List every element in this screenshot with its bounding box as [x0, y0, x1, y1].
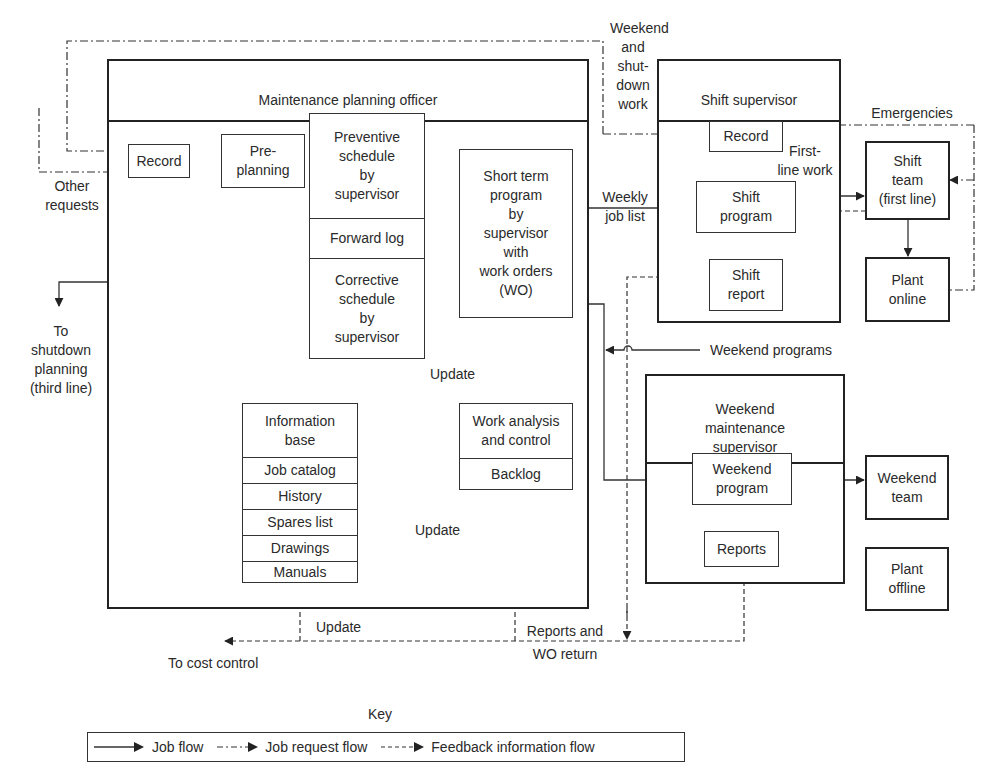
first-line-work-label: First- line work — [770, 142, 840, 180]
work-analysis-control: Work analysis and control — [460, 404, 572, 459]
job-request-flow-arrow-icon — [217, 741, 259, 753]
legend-feedback-flow: Feedback information flow — [431, 739, 594, 755]
to-cost-control-label: To cost control — [168, 654, 288, 673]
shift-supervisor-title: Shift supervisor — [659, 80, 839, 122]
shift-team-box: Shift team (first line) — [865, 141, 950, 220]
shift-report-box: Shift report — [709, 259, 783, 311]
key-title: Key — [360, 705, 400, 724]
to-shutdown-label: To shutdown planning (third line) — [18, 322, 104, 398]
update-label-bottom: Update — [316, 618, 376, 637]
short-term-program-box: Short term program by supervisor with wo… — [459, 149, 573, 318]
plant-offline-box: Plant offline — [865, 547, 949, 611]
info-item-manuals: Manuals — [243, 562, 357, 582]
schedule-stack: Preventive schedule by supervisor Forwar… — [309, 113, 425, 359]
corrective-schedule: Corrective schedule by supervisor — [310, 259, 424, 358]
work-analysis-stack: Work analysis and control Backlog — [459, 403, 573, 490]
legend-job-request-flow: Job request flow — [265, 739, 367, 755]
information-base-header: Information base — [243, 404, 357, 458]
legend: Job flow Job request flow Feedback infor… — [87, 732, 685, 762]
reports-wo-return-label: Reports and WO return — [515, 620, 615, 666]
weekly-job-list-label: Weekly job list — [590, 188, 660, 226]
weekend-team-box: Weekend team — [865, 455, 949, 520]
preventive-schedule: Preventive schedule by supervisor — [310, 114, 424, 219]
weekend-programs-label: Weekend programs — [710, 341, 870, 360]
record-box-left: Record — [128, 144, 190, 178]
backlog: Backlog — [460, 459, 572, 489]
info-item-job-catalog: Job catalog — [243, 458, 357, 484]
emergencies-label: Emergencies — [862, 104, 962, 123]
shift-program-box: Shift program — [696, 181, 796, 233]
plant-online-box: Plant online — [865, 257, 950, 322]
reports-box: Reports — [704, 531, 779, 567]
weekend-program-box: Weekend program — [692, 453, 792, 505]
weekend-shutdown-work-label: Weekend and shut- down work — [610, 19, 656, 114]
feedback-flow-arrow-icon — [381, 741, 425, 753]
other-requests-label: Other requests — [38, 177, 106, 215]
job-flow-arrow-icon — [94, 741, 146, 753]
forward-log: Forward log — [310, 219, 424, 259]
pre-planning-box: Pre- planning — [221, 134, 305, 188]
information-base-stack: Information base Job catalog History Spa… — [242, 403, 358, 583]
update-label-top: Update — [430, 365, 490, 384]
legend-job-flow: Job flow — [152, 739, 203, 755]
update-label-mid: Update — [415, 521, 475, 540]
info-item-spares-list: Spares list — [243, 510, 357, 536]
info-item-drawings: Drawings — [243, 536, 357, 562]
info-item-history: History — [243, 484, 357, 510]
